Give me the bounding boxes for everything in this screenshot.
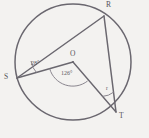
vertex-label-s: S <box>4 73 8 81</box>
geometry-canvas <box>0 0 149 138</box>
vertex-label-t: T <box>119 112 124 120</box>
vertex-label-r: R <box>106 1 111 9</box>
angle-label-o: 126° <box>61 70 72 76</box>
angle-arc-t <box>103 92 114 96</box>
center-point <box>72 61 74 63</box>
angle-label-s: 28° <box>31 60 39 66</box>
chord-sr <box>17 16 104 78</box>
center-label-o: O <box>70 50 75 58</box>
geometry-figure: R S T O 28° 126° r <box>0 0 149 138</box>
chord-rt <box>104 16 116 112</box>
angle-label-t: r <box>106 86 108 92</box>
radius-ot <box>73 62 116 112</box>
